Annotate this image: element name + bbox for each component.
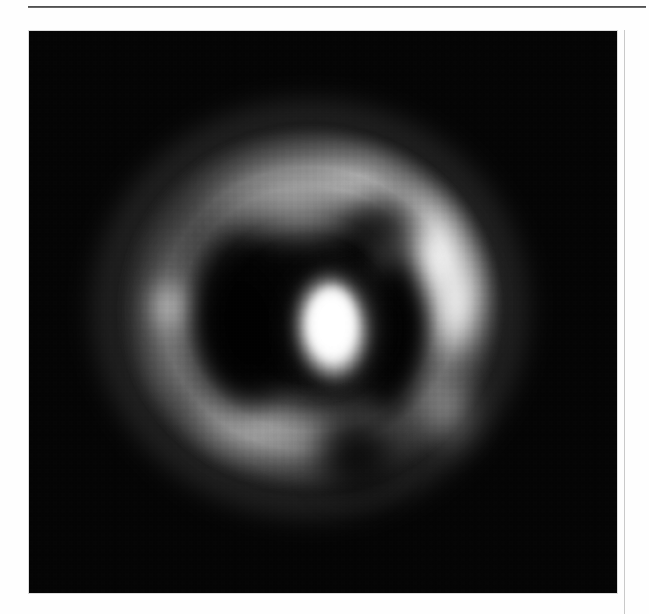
scanned-page: [0, 0, 649, 614]
figure-canvas: [29, 31, 617, 593]
horizontal-rule: [28, 6, 646, 8]
annular-ring: [115, 123, 505, 495]
column-separator-rule: [624, 30, 625, 614]
figure-image: [29, 31, 617, 593]
